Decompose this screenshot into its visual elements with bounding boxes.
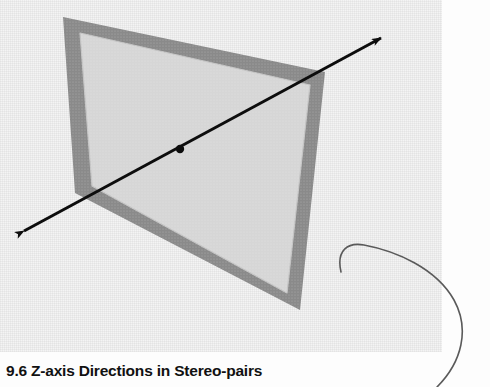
plane-center-point — [176, 145, 184, 153]
figure-illustration — [0, 0, 490, 387]
image-plane-texture — [63, 17, 325, 310]
figure-caption: 9.6 Z-axis Directions in Stereo-pairs — [6, 363, 476, 379]
image-plane-quadrilateral — [63, 17, 325, 310]
figure-page: 9.6 Z-axis Directions in Stereo-pairs — [0, 0, 490, 387]
